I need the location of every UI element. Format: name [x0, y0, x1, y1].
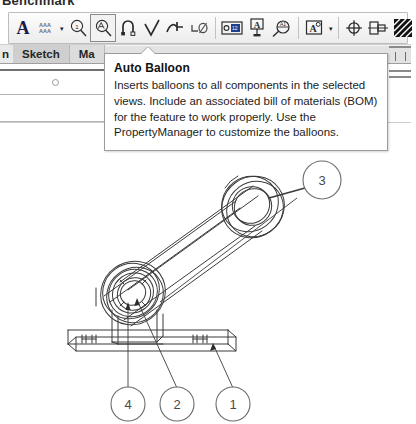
area-hatch-fill-icon	[392, 17, 414, 39]
toolbar-separator	[298, 17, 299, 39]
svg-text:12: 12	[232, 25, 238, 31]
datum-target-icon: A1	[271, 18, 293, 38]
spell-checker-icon: AAA AAA	[37, 19, 55, 37]
tab-sketch[interactable]: Sketch	[13, 45, 70, 63]
geometric-tolerance-icon	[189, 19, 211, 37]
datum-feature-icon: A	[247, 18, 267, 38]
leader-1	[214, 346, 233, 388]
hole-callout-icon: 12	[221, 20, 243, 36]
balloon-2[interactable]: 2	[160, 387, 194, 421]
balloon-4[interactable]: 4	[111, 387, 145, 421]
drawing-svg: 3 4 2 1	[0, 130, 411, 424]
clipped-page-heading: Benchmark	[2, 0, 75, 5]
revision-symbol-dropdown-caret[interactable]: ▾	[326, 25, 335, 32]
toolbar-button-area-hatch-fill[interactable]	[390, 14, 416, 42]
toolbar-button-datum-target[interactable]: A1	[269, 14, 295, 42]
weld-symbol-icon	[165, 18, 187, 38]
centerline-icon	[367, 19, 389, 37]
tooltip-title: Auto Balloon	[114, 61, 378, 75]
svg-text:A1: A1	[280, 21, 286, 27]
balloon-3-label: 3	[318, 173, 325, 188]
note-A-icon: A	[13, 18, 33, 38]
document-side-panel	[0, 94, 108, 122]
svg-text:AAA: AAA	[39, 28, 51, 34]
toolbar-separator	[338, 17, 339, 39]
balloon-3[interactable]: 3	[303, 161, 341, 199]
toolbar-button-weld-symbol[interactable]	[164, 14, 188, 42]
arrowhead-2	[134, 298, 140, 306]
center-mark-icon	[344, 18, 364, 38]
balloon-icon: 1	[68, 18, 88, 38]
leader-3-extension	[160, 198, 297, 302]
document-origin-marker	[52, 79, 59, 86]
toolbar-button-revision-symbol[interactable]: A	[302, 14, 326, 42]
magnetic-line-icon	[118, 18, 138, 38]
balloon-leaders	[128, 188, 305, 388]
leader-arrowheads	[125, 298, 216, 351]
balloon-4-label: 4	[124, 397, 131, 412]
toolbar-button-center-mark[interactable]	[342, 14, 366, 42]
tooltip-arrow	[141, 47, 155, 54]
toolbar-button-hole-callout[interactable]: 12	[219, 14, 245, 42]
balloon-2-label: 2	[173, 397, 180, 412]
auto-balloon-icon	[93, 18, 113, 38]
toolbar-button-geometric-tolerance[interactable]	[188, 14, 212, 42]
vertical-scroll-remnant[interactable]	[389, 44, 411, 84]
toolbar-button-magnetic-line[interactable]	[116, 14, 140, 42]
toolbar-button-auto-balloon[interactable]	[90, 14, 116, 42]
toolbar-button-centerline[interactable]	[366, 14, 390, 42]
toolbar-button-balloon[interactable]: 1	[66, 14, 90, 42]
spell-checker-dropdown-caret[interactable]: ▾	[57, 25, 66, 32]
annotation-toolbar: A AAA AAA ▾ 1	[8, 12, 408, 44]
drawing-view-connecting-rod[interactable]: 3 4 2 1	[0, 130, 411, 424]
toolbar-separator	[215, 17, 216, 39]
toolbar-button-surface-finish[interactable]	[140, 14, 164, 42]
toolbar-button-datum-feature[interactable]: A	[245, 14, 269, 42]
surface-finish-icon	[142, 18, 162, 38]
balloon-1[interactable]: 1	[216, 387, 250, 421]
arrowhead-4	[125, 302, 130, 310]
small-end-boss	[209, 164, 296, 250]
svg-text:1: 1	[75, 24, 79, 30]
svg-text:A: A	[17, 18, 30, 38]
leader-3	[269, 188, 305, 198]
tab-clipped-previous[interactable]: n	[0, 45, 13, 63]
tab-markup[interactable]: Ma	[70, 45, 105, 63]
balloon-1-label: 1	[229, 397, 236, 412]
revision-symbol-icon: A	[304, 18, 324, 38]
toolbar-button-note[interactable]: A	[11, 14, 35, 42]
auto-balloon-tooltip: Auto Balloon Inserts balloons to all com…	[104, 53, 388, 151]
svg-text:A: A	[254, 20, 261, 30]
toolbar-button-spell-checker[interactable]: AAA AAA	[35, 14, 57, 42]
tooltip-body: Inserts balloons to all components in th…	[114, 78, 378, 141]
